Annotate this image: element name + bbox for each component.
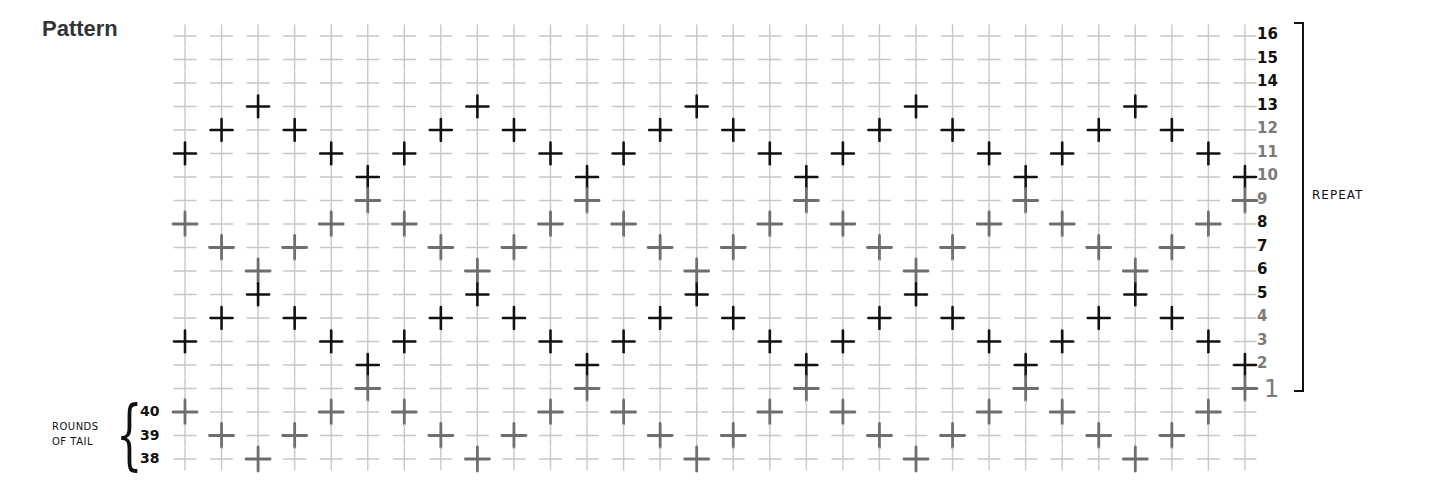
grid-stitch-cross <box>1161 143 1183 165</box>
grid-stitch-cross <box>613 119 635 141</box>
repeat-bracket <box>1294 22 1304 392</box>
grid-stitch-cross <box>1197 307 1219 329</box>
grid-stitch-cross <box>247 237 269 259</box>
grid-stitch-cross <box>722 401 744 423</box>
grid-stitch-cross <box>978 237 1000 259</box>
grid-stitch-cross <box>320 166 342 188</box>
grid-stitch-cross <box>722 72 744 94</box>
grid-stitch-cross <box>942 96 964 118</box>
medium-stitch-cross <box>465 447 489 471</box>
grid-stitch-cross <box>1051 190 1073 212</box>
grid-stitch-cross <box>759 237 781 259</box>
dark-stitch-cross <box>393 331 415 353</box>
grid-stitch-cross <box>868 166 890 188</box>
dark-stitch-cross <box>868 119 890 141</box>
pattern-chart <box>0 0 1437 497</box>
grid-stitch-cross <box>320 25 342 47</box>
grid-stitch-cross <box>832 166 854 188</box>
grid-stitch-cross <box>284 354 306 376</box>
grid-stitch-cross <box>540 190 562 212</box>
grid-stitch-cross <box>320 96 342 118</box>
medium-stitch-cross <box>941 236 965 260</box>
grid-stitch-cross <box>320 448 342 470</box>
grid-stitch-cross <box>942 448 964 470</box>
grid-stitch-cross <box>649 284 671 306</box>
medium-stitch-cross <box>904 447 928 471</box>
tail-row-label: 39 <box>140 428 159 442</box>
medium-stitch-cross <box>246 447 270 471</box>
grid-stitch-cross <box>430 331 452 353</box>
grid-stitch-cross <box>174 190 196 212</box>
grid-stitch-cross <box>832 96 854 118</box>
grid-stitch-cross <box>1161 284 1183 306</box>
grid-stitch-cross <box>211 260 233 282</box>
grid-stitch-cross <box>722 354 744 376</box>
grid-stitch-cross <box>430 378 452 400</box>
grid-stitch-cross <box>576 25 598 47</box>
row-label: 9 <box>1257 192 1267 207</box>
rounds-of-tail-label: ROUNDS OF TAIL <box>52 419 99 449</box>
grid-stitch-cross <box>466 425 488 447</box>
grid-stitch-cross <box>868 25 890 47</box>
grid-stitch-cross <box>1088 49 1110 71</box>
grid-stitch-cross <box>1015 425 1037 447</box>
dark-stitch-cross <box>430 307 452 329</box>
grid-stitch-cross <box>1197 354 1219 376</box>
grid-stitch-cross <box>320 284 342 306</box>
grid-stitch-cross <box>174 284 196 306</box>
grid-stitch-cross <box>759 96 781 118</box>
grid-stitch-cross <box>540 72 562 94</box>
grid-stitch-cross <box>576 307 598 329</box>
medium-stitch-cross <box>173 212 197 236</box>
grid-stitch-cross <box>1197 49 1219 71</box>
grid-stitch-cross <box>247 25 269 47</box>
grid-stitch-cross <box>686 307 708 329</box>
grid-stitch-cross <box>503 284 525 306</box>
grid-stitch-cross <box>540 119 562 141</box>
grid-stitch-cross <box>832 260 854 282</box>
grid-stitch-cross <box>1161 25 1183 47</box>
grid-stitch-cross <box>576 331 598 353</box>
grid-stitch-cross <box>978 25 1000 47</box>
grid-stitch-cross <box>1088 354 1110 376</box>
grid-stitch-cross <box>247 49 269 71</box>
grid-stitch-cross <box>576 448 598 470</box>
grid-stitch-cross <box>759 425 781 447</box>
grid-stitch-cross <box>978 96 1000 118</box>
grid-stitch-cross <box>832 72 854 94</box>
grid-stitch-cross <box>284 143 306 165</box>
grid-stitch-cross <box>174 378 196 400</box>
medium-stitch-cross <box>1014 377 1038 401</box>
grid-stitch-cross <box>649 213 671 235</box>
grid-stitch-cross <box>868 354 890 376</box>
grid-stitch-cross <box>832 425 854 447</box>
grid-stitch-cross <box>1015 448 1037 470</box>
grid-stitch-cross <box>576 96 598 118</box>
row-label: 3 <box>1257 333 1267 348</box>
grid-stitch-cross <box>1088 284 1110 306</box>
grid-stitch-cross <box>722 96 744 118</box>
grid-stitch-cross <box>759 260 781 282</box>
medium-stitch-cross <box>685 447 709 471</box>
grid-stitch-cross <box>540 378 562 400</box>
grid-stitch-cross <box>503 401 525 423</box>
grid-stitch-cross <box>722 143 744 165</box>
grid-stitch-cross <box>722 190 744 212</box>
medium-stitch-cross <box>1087 424 1111 448</box>
row-label: 6 <box>1257 262 1267 277</box>
grid-stitch-cross <box>1051 119 1073 141</box>
grid-stitch-cross <box>942 401 964 423</box>
grid-stitch-cross <box>613 378 635 400</box>
grid-stitch-cross <box>1161 96 1183 118</box>
grid-stitch-cross <box>1161 213 1183 235</box>
grid-stitch-cross <box>430 49 452 71</box>
grid-stitch-cross <box>832 190 854 212</box>
grid-stitch-cross <box>686 331 708 353</box>
grid-stitch-cross <box>978 307 1000 329</box>
grid-stitch-cross <box>978 72 1000 94</box>
grid-stitch-cross <box>1051 307 1073 329</box>
grid-stitch-cross <box>1051 378 1073 400</box>
grid-stitch-cross <box>722 284 744 306</box>
grid-stitch-cross <box>686 119 708 141</box>
medium-stitch-cross <box>539 212 563 236</box>
